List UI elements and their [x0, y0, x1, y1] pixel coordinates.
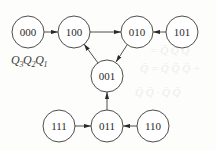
- state-label-100: 100: [66, 26, 83, 38]
- state-label-001: 001: [99, 70, 116, 82]
- state-label-011: 011: [99, 120, 115, 132]
- var-q1-base: Q: [35, 53, 43, 67]
- state-label-111: 111: [51, 120, 67, 132]
- state-label-010: 010: [129, 26, 146, 38]
- state-label-000: 000: [20, 26, 37, 38]
- state-variable-label: Q3Q2Q1: [11, 53, 47, 69]
- var-q1-sub: 1: [44, 60, 48, 69]
- transition-001-to-100: [84, 44, 98, 63]
- diagram-canvas: = Q̄ Q̄ Q̄ Q̄ = Q̄ Q̄ Q̄ + Q̄ Q̄ · Q̄ Q̄: [0, 0, 216, 151]
- state-label-110: 110: [145, 120, 162, 132]
- state-diagram: 000 100 010 101 001 111 011 110: [0, 0, 216, 151]
- transition-010-to-001: [116, 45, 127, 62]
- state-label-101: 101: [174, 26, 191, 38]
